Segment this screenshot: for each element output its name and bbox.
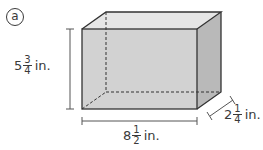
height-fraction: 3 4	[23, 55, 31, 76]
width-unit: in.	[245, 107, 261, 122]
height-label: 5 3 4 in.	[14, 55, 51, 76]
length-denominator: 2	[133, 136, 139, 146]
height-unit: in.	[35, 58, 51, 73]
width-label: 2 1 4 in.	[224, 104, 261, 125]
length-unit: in.	[144, 128, 160, 143]
width-whole: 2	[224, 107, 232, 122]
width-denominator: 4	[234, 115, 240, 125]
width-fraction: 1 4	[233, 104, 241, 125]
height-dimension-line	[66, 29, 74, 109]
height-whole: 5	[14, 58, 22, 73]
length-whole: 8	[123, 128, 131, 143]
length-fraction: 1 2	[132, 125, 140, 146]
length-label: 8 1 2 in.	[123, 125, 160, 146]
height-denominator: 4	[24, 66, 30, 76]
